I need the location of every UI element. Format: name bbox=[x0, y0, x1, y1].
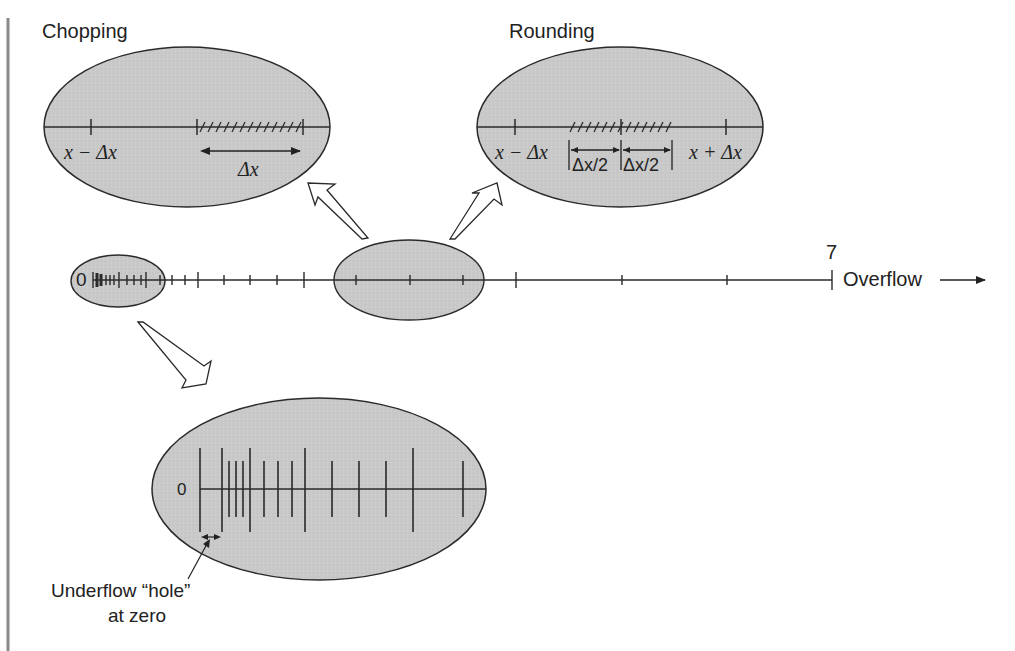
hollow-arrow-to-chopping bbox=[308, 183, 368, 239]
chopping-bubble bbox=[44, 47, 330, 207]
underflow-zero-label: 0 bbox=[177, 480, 186, 500]
underflow-caption-line1: Underflow “hole” bbox=[51, 580, 190, 602]
rounding-right-label: x + Δx bbox=[689, 141, 742, 164]
hollow-arrow-to-rounding bbox=[450, 183, 502, 239]
chopping-interval-label: Δx bbox=[238, 158, 259, 181]
rounding-half-right-label: Δx/2 bbox=[623, 155, 659, 176]
chopping-title: Chopping bbox=[42, 20, 128, 43]
overflow-label: Overflow bbox=[843, 268, 922, 291]
underflow-bubble bbox=[152, 398, 486, 580]
number-line-max-label: 7 bbox=[826, 241, 837, 264]
rounding-title: Rounding bbox=[509, 20, 595, 43]
floating-point-number-line-diagram: Chopping Rounding x − Δx Δx x − Δx x + Δ… bbox=[0, 0, 1015, 651]
chopping-left-label: x − Δx bbox=[64, 141, 117, 164]
number-line-zero-label: 0 bbox=[76, 269, 87, 291]
rounding-left-label: x − Δx bbox=[495, 141, 548, 164]
underflow-caption-line2: at zero bbox=[108, 605, 166, 627]
diagram-graphics bbox=[0, 0, 1015, 651]
rounding-bubble bbox=[477, 47, 763, 207]
hollow-arrow-to-underflow bbox=[138, 322, 211, 388]
rounding-half-left-label: Δx/2 bbox=[572, 155, 608, 176]
